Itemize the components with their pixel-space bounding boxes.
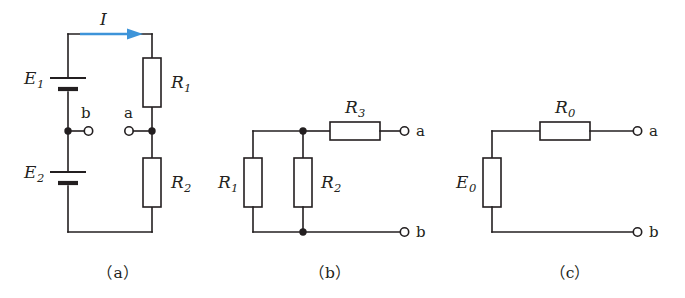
label-r2-b: R bbox=[320, 172, 334, 192]
circuit-c-group: E 0 R 0 a b （c） bbox=[455, 97, 659, 282]
label-r3-b: R bbox=[344, 97, 358, 117]
label-r0-c: R bbox=[554, 97, 568, 117]
terminal-b-a[interactable] bbox=[84, 127, 92, 135]
resistor-r1-a-box bbox=[143, 58, 161, 107]
source-e0-box bbox=[483, 158, 501, 207]
circuit-diagram-svg: E 1 E 2 R 1 R 2 I b a （a） bbox=[0, 0, 685, 298]
label-current-i: I bbox=[99, 9, 107, 29]
caption-c: （c） bbox=[550, 264, 591, 282]
resistor-r2-a-box bbox=[143, 158, 161, 207]
caption-b: （b） bbox=[309, 264, 351, 282]
node-dot-bottom-b bbox=[299, 228, 306, 235]
label-e0-subscript: 0 bbox=[469, 181, 476, 195]
node-dot-a-a bbox=[148, 127, 155, 134]
caption-a: （a） bbox=[97, 264, 138, 282]
circuit-b-group: R 1 R 2 R 3 a b （b） bbox=[217, 97, 426, 282]
terminal-a-a[interactable] bbox=[125, 127, 133, 135]
node-dot-top-b bbox=[299, 127, 306, 134]
terminal-b-b[interactable] bbox=[400, 228, 408, 236]
label-r1-a-subscript: 1 bbox=[184, 81, 191, 95]
resistor-r0-c-box bbox=[540, 122, 590, 140]
label-e2: E bbox=[23, 162, 37, 182]
label-r1-b-subscript: 1 bbox=[231, 181, 238, 195]
label-e1: E bbox=[23, 68, 37, 88]
circuit-a-group: E 1 E 2 R 1 R 2 I b a （a） bbox=[23, 9, 191, 282]
label-r0-c-subscript: 0 bbox=[568, 106, 575, 120]
terminal-a-b[interactable] bbox=[400, 127, 408, 135]
figure-canvas: E 1 E 2 R 1 R 2 I b a （a） bbox=[0, 0, 685, 298]
label-terminal-a-a: a bbox=[124, 104, 133, 122]
label-r2-a-subscript: 2 bbox=[183, 181, 191, 195]
resistor-r2-b-box bbox=[294, 158, 312, 207]
resistor-r3-b-box bbox=[330, 122, 380, 140]
label-r2-a: R bbox=[170, 172, 184, 192]
label-terminal-b-c: b bbox=[649, 223, 659, 241]
label-e1-subscript: 1 bbox=[37, 77, 44, 91]
label-terminal-a-c: a bbox=[649, 122, 658, 140]
resistor-r1-b-box bbox=[244, 158, 262, 207]
label-terminal-b-b: b bbox=[416, 223, 426, 241]
label-r1-b: R bbox=[217, 172, 231, 192]
label-r1-a: R bbox=[170, 72, 184, 92]
label-e0: E bbox=[455, 172, 469, 192]
label-r3-b-subscript: 3 bbox=[358, 106, 365, 120]
label-e2-subscript: 2 bbox=[36, 171, 44, 185]
terminal-b-c[interactable] bbox=[633, 228, 641, 236]
current-arrow-head bbox=[127, 29, 143, 40]
terminal-a-c[interactable] bbox=[633, 127, 641, 135]
label-r2-b-subscript: 2 bbox=[333, 181, 341, 195]
label-terminal-a-b: a bbox=[416, 122, 425, 140]
label-terminal-b-a: b bbox=[81, 104, 91, 122]
